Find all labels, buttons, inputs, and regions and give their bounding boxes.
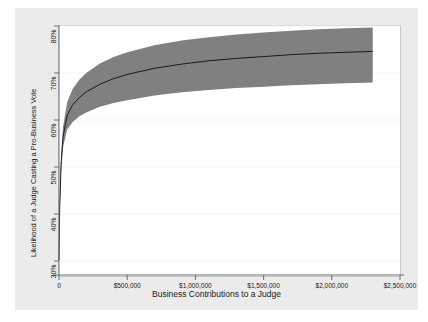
chart-figure: Likelihood of a Judge Casting a Pro-Busi… xyxy=(15,8,418,310)
y-tick-label: 30% xyxy=(50,260,57,284)
x-axis-title: Business Contributions to a Judge xyxy=(15,289,418,299)
x-tick-label: $1,500,000 xyxy=(234,282,294,289)
y-tick-label: 80% xyxy=(50,25,57,49)
y-axis-title: Likelihood of a Judge Casting a Pro-Busi… xyxy=(29,89,38,257)
y-tick-label: 70% xyxy=(50,72,57,96)
chart-canvas xyxy=(15,8,418,310)
y-tick-label: 40% xyxy=(50,213,57,237)
x-tick-label: $500,000 xyxy=(97,282,157,289)
x-tick-label: 0 xyxy=(29,282,89,289)
x-tick-label: $1,000,000 xyxy=(165,282,225,289)
x-tick-label: $2,500,000 xyxy=(370,282,428,289)
confidence-band xyxy=(59,27,373,262)
x-tick-label: $2,000,000 xyxy=(302,282,362,289)
y-tick-label: 60% xyxy=(50,119,57,143)
y-tick-label: 50% xyxy=(50,166,57,190)
